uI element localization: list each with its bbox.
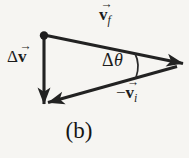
theta-letter: θ	[114, 50, 123, 70]
vector-arrow-accent: →	[19, 40, 31, 52]
vector-symbol: →v	[126, 84, 135, 101]
label-neg-v-i: −→vi	[116, 84, 137, 105]
vector-neg-vi-line	[48, 67, 177, 103]
delta-prefix: Δ	[102, 50, 114, 70]
minus-prefix: −	[116, 83, 126, 102]
vector-arrow-accent: →	[127, 76, 139, 88]
label-v-f: →vf	[99, 6, 111, 27]
figure-panel: →vf Δ→v Δθ −→vi (b)	[0, 0, 189, 158]
vector-symbol: →v	[99, 6, 108, 23]
vector-arrow-accent: →	[100, 0, 112, 11]
delta-prefix: Δ	[7, 47, 18, 66]
vector-subscript: i	[134, 91, 137, 105]
label-delta-theta: Δθ	[102, 51, 123, 69]
vector-symbol: →v	[18, 48, 27, 65]
angle-arc	[135, 54, 138, 78]
label-delta-v: Δ→v	[7, 48, 26, 65]
origin-dot	[40, 31, 48, 39]
figure-caption: (b)	[44, 118, 114, 144]
